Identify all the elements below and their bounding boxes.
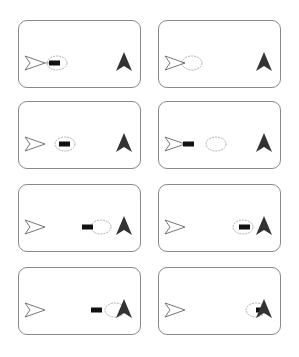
outline-arrow-icon (165, 220, 185, 234)
outline-arrow-icon (165, 303, 185, 317)
step-panel-6 (158, 184, 281, 252)
step-panel-5 (18, 184, 141, 252)
moving-bar (183, 142, 194, 147)
moving-bar (59, 142, 70, 147)
filled-arrow-icon (116, 133, 132, 152)
outline-arrow-icon (25, 137, 45, 151)
filled-arrow-icon (116, 52, 132, 71)
step-panel-3 (18, 101, 141, 169)
step-panel-7 (18, 267, 141, 335)
target-ellipse (206, 137, 226, 151)
outline-arrow-icon (25, 56, 45, 70)
target-ellipse (91, 220, 111, 234)
step-panel-8 (158, 267, 281, 335)
outline-arrow-icon (25, 220, 45, 234)
moving-bar (239, 225, 250, 230)
cropped-caption (0, 0, 299, 2)
filled-arrow-icon (116, 299, 132, 318)
outline-arrow-icon (165, 137, 185, 151)
step-panel-1 (18, 20, 141, 88)
filled-arrow-icon (256, 52, 272, 71)
moving-bar (91, 308, 102, 313)
outline-arrow-icon (25, 303, 45, 317)
step-panel-4 (158, 101, 281, 169)
step-panel-2 (158, 20, 281, 88)
moving-bar (82, 225, 93, 230)
filled-arrow-icon (256, 216, 272, 235)
filled-arrow-icon (256, 133, 272, 152)
moving-bar (49, 61, 60, 66)
filled-arrow-icon (116, 216, 132, 235)
